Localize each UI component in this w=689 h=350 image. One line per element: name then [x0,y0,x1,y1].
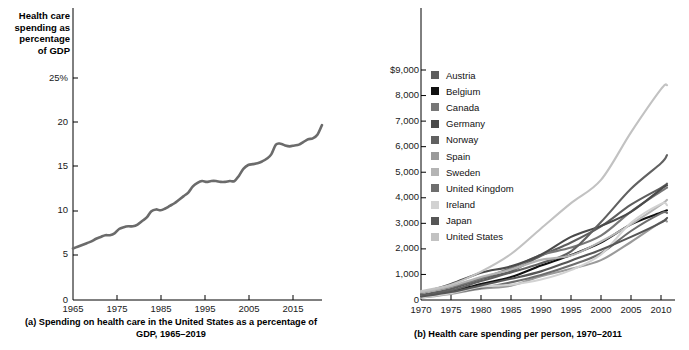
legend-item-label: Austria [446,70,476,81]
panel-a-x-tickmarks [117,295,293,300]
legend-item-belgium[interactable]: Belgium [431,83,514,99]
panel-b-y-tickmarks [421,70,426,274]
legend-swatch-icon [431,120,439,128]
legend-swatch-icon [431,233,439,241]
legend-item-label: United States [446,231,503,242]
panel-b-legend: AustriaBelgiumCanadaGermanyNorwaySpainSw… [431,67,514,245]
legend-swatch-icon [431,87,439,95]
legend-item-canada[interactable]: Canada [431,99,514,115]
figure-container: Health care spending as percentage of GD… [0,0,689,350]
legend-swatch-icon [431,168,439,176]
legend-item-norway[interactable]: Norway [431,132,514,148]
legend-item-united-kingdom[interactable]: United Kingdom [431,180,514,196]
panel-b-x-tickmarks [451,295,661,300]
legend-item-label: Sweden [446,167,480,178]
legend-swatch-icon [431,136,439,144]
panel-a-us-gdp-share: Health care spending as percentage of GD… [0,0,345,350]
legend-item-sweden[interactable]: Sweden [431,164,514,180]
legend-item-label: Ireland [446,199,475,210]
panel-b-spending-per-person: Health care spending per person $9,000 8… [345,0,689,350]
legend-item-ireland[interactable]: Ireland [431,197,514,213]
panel-a-caption: (a) Spending on health care in the Unite… [16,317,326,340]
legend-item-austria[interactable]: Austria [431,67,514,83]
legend-item-label: Germany [446,118,485,129]
legend-item-japan[interactable]: Japan [431,213,514,229]
legend-item-label: Canada [446,102,479,113]
legend-swatch-icon [431,184,439,192]
panel-a-plot [0,0,345,350]
legend-item-germany[interactable]: Germany [431,116,514,132]
legend-swatch-icon [431,217,439,225]
legend-swatch-icon [431,152,439,160]
legend-swatch-icon [431,201,439,209]
legend-item-united-states[interactable]: United States [431,229,514,245]
legend-item-label: Belgium [446,86,480,97]
panel-b-plot [345,0,689,350]
legend-swatch-icon [431,103,439,111]
legend-swatch-icon [431,71,439,79]
panel-b-caption: (b) Health care spending per person, 197… [368,329,668,341]
legend-item-spain[interactable]: Spain [431,148,514,164]
legend-item-label: United Kingdom [446,183,514,194]
panel-a-y-tickmarks [73,78,78,255]
panel-a-series-line [73,125,322,248]
legend-item-label: Spain [446,151,470,162]
legend-item-label: Norway [446,134,478,145]
legend-item-label: Japan [446,215,472,226]
